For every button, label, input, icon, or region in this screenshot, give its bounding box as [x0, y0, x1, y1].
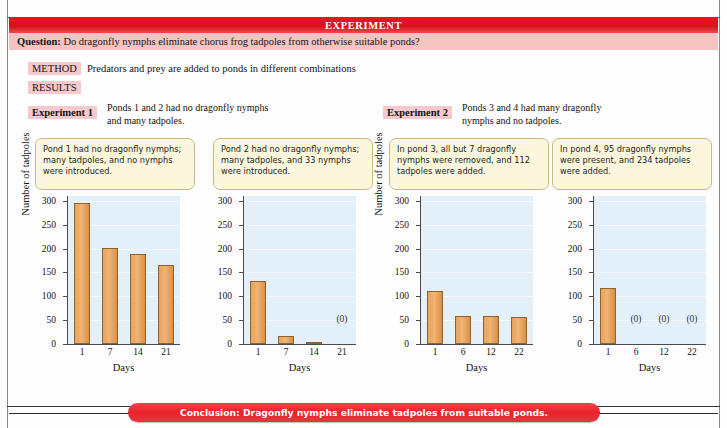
chart-pond-4: (0)(0)(0)050100150200250300161222Days	[548, 192, 716, 388]
y-axis-tick-label: 50	[22, 315, 63, 325]
bar	[130, 254, 146, 344]
experiment-figure: EXPERIMENT Question: Do dragonfly nymphs…	[0, 0, 727, 428]
question-row: Question: Do dragonfly nymphs eliminate …	[9, 33, 718, 50]
experiment-2-heading: Experiment 2 Ponds 3 and 4 had many drag…	[383, 102, 634, 127]
results-label: RESULTS	[28, 81, 81, 94]
zero-value-label: (0)	[658, 314, 669, 324]
y-axis-line	[243, 196, 244, 344]
y-axis-tick-label: 300	[198, 196, 239, 206]
y-axis-line	[593, 196, 594, 344]
gridline	[244, 272, 356, 273]
x-axis-title: Days	[243, 362, 356, 373]
bar	[511, 317, 527, 344]
experiment-2-description: Ponds 3 and 4 had many dragonfly nymphs …	[462, 102, 634, 127]
x-axis-line	[420, 344, 533, 345]
y-axis-tick	[589, 344, 593, 345]
y-axis-tick	[239, 320, 243, 321]
y-axis-tick	[589, 320, 593, 321]
y-axis-tick	[416, 201, 420, 202]
experiment-banner: EXPERIMENT	[9, 18, 718, 33]
y-axis-tick-label: 50	[548, 315, 589, 325]
y-axis-tick-label: 150	[198, 267, 239, 277]
chart-pond-2: (0)050100150200250300171421Days	[198, 192, 366, 388]
gridline	[244, 201, 356, 202]
callout-pond-4: In pond 4, 95 dragonfly nymphs were pres…	[552, 138, 712, 190]
x-axis-tick-label: 1	[80, 347, 85, 357]
callout-pond-2: Pond 2 had no dragonfly nymphs; many tad…	[213, 138, 373, 190]
chart-pond-1: Number of tadpoles0501001502002503001714…	[22, 192, 190, 388]
plot-area	[68, 196, 180, 344]
y-axis-tick-label: 300	[375, 196, 416, 206]
y-axis-tick	[63, 249, 67, 250]
x-axis-tick-label: 22	[687, 347, 697, 357]
y-axis-tick	[416, 296, 420, 297]
results-line: RESULTS	[28, 81, 81, 94]
y-axis-tick	[239, 272, 243, 273]
y-axis-tick	[239, 296, 243, 297]
conclusion-banner: Conclusion: Dragonfly nymphs eliminate t…	[128, 403, 600, 422]
x-axis-tick-label: 7	[284, 347, 289, 357]
y-axis-tick	[416, 320, 420, 321]
y-axis-tick-label: 150	[375, 267, 416, 277]
bar	[102, 248, 118, 344]
y-axis-tick-label: 250	[198, 220, 239, 230]
x-axis-title: Days	[67, 362, 180, 373]
x-axis-tick-label: 6	[461, 347, 466, 357]
y-axis-tick-label: 200	[548, 244, 589, 254]
y-axis-tick	[416, 225, 420, 226]
gridline	[244, 249, 356, 250]
y-axis-tick-label: 150	[548, 267, 589, 277]
y-axis-title: Number of tadpoles	[20, 120, 31, 228]
y-axis-tick	[63, 225, 67, 226]
y-axis-tick-label: 50	[198, 315, 239, 325]
y-axis-tick	[416, 249, 420, 250]
y-axis-tick	[63, 344, 67, 345]
plot-area: (0)(0)(0)	[594, 196, 706, 344]
y-axis-tick	[589, 249, 593, 250]
x-axis-tick-label: 22	[514, 347, 524, 357]
y-axis-tick-label: 100	[375, 291, 416, 301]
y-axis-tick	[589, 296, 593, 297]
x-axis-tick-label: 1	[606, 347, 611, 357]
bar	[483, 316, 499, 344]
gridline	[421, 201, 533, 202]
x-axis-line	[67, 344, 180, 345]
gridline	[421, 272, 533, 273]
bar	[74, 203, 90, 344]
y-axis-tick-label: 250	[375, 220, 416, 230]
gridline	[421, 225, 533, 226]
gridline	[421, 249, 533, 250]
y-axis-tick	[239, 225, 243, 226]
y-axis-tick	[63, 296, 67, 297]
x-axis-tick-label: 7	[108, 347, 113, 357]
method-line: METHOD Predators and prey are added to p…	[28, 62, 356, 75]
y-axis-tick	[63, 201, 67, 202]
x-axis-tick-label: 1	[256, 347, 261, 357]
x-axis-title: Days	[420, 362, 533, 373]
x-axis-tick-label: 21	[337, 347, 347, 357]
y-axis-tick	[589, 272, 593, 273]
zero-value-label: (0)	[336, 314, 347, 324]
x-axis-tick-label: 1	[433, 347, 438, 357]
callout-pond-3: In pond 3, all but 7 dragonfly nymphs we…	[389, 138, 549, 190]
y-axis-tick	[416, 272, 420, 273]
y-axis-tick	[239, 201, 243, 202]
method-text: Predators and prey are added to ponds in…	[87, 63, 356, 74]
gridline	[244, 225, 356, 226]
gridline	[594, 225, 706, 226]
left-border-rule	[7, 0, 8, 428]
y-axis-tick-label: 0	[375, 339, 416, 349]
y-axis-tick-label: 0	[198, 339, 239, 349]
bar	[250, 281, 266, 344]
y-axis-tick	[63, 320, 67, 321]
y-axis-tick-label: 300	[548, 196, 589, 206]
experiment-1-label: Experiment 1	[28, 106, 97, 119]
y-axis-tick-label: 250	[548, 220, 589, 230]
experiment-1-heading: Experiment 1 Ponds 1 and 2 had no dragon…	[28, 102, 275, 127]
x-axis-tick-label: 6	[634, 347, 639, 357]
gridline	[594, 272, 706, 273]
y-axis-tick-label: 0	[548, 339, 589, 349]
y-axis-tick	[63, 272, 67, 273]
x-axis-tick-label: 21	[161, 347, 171, 357]
y-axis-tick-label: 100	[548, 291, 589, 301]
